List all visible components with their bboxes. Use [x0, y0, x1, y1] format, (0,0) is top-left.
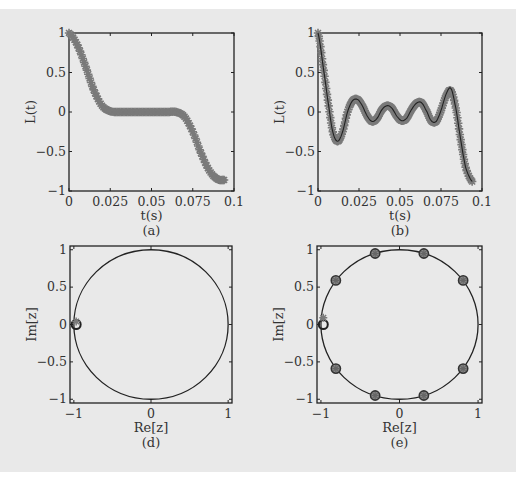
x-tick-label: 0.075 [175, 194, 211, 209]
y-tick-label: −1 [49, 391, 67, 406]
x-axis-label: t(s) [389, 208, 411, 223]
y-tick-label: −1 [296, 391, 314, 406]
star-marker [420, 392, 427, 399]
y-tick-label: 1 [59, 242, 67, 257]
star-marker [220, 176, 228, 184]
panel-label: (b) [391, 223, 409, 238]
plot-area [65, 29, 229, 184]
y-tick-label: 0.5 [47, 279, 67, 294]
y-tick-label: 0.5 [46, 65, 66, 80]
unit-circle [74, 250, 228, 400]
panel-label: (e) [391, 435, 409, 450]
figure: 00.0250.050.0750.1−1−0.500.51t(s)L(t)(a)… [0, 0, 516, 487]
chart-panel-a: 00.0250.050.0750.1−1−0.500.51t(s)L(t)(a) [23, 25, 244, 238]
panel-label: (d) [142, 435, 160, 450]
x-tick-label: 0.1 [224, 194, 244, 209]
x-tick-label: 0.025 [92, 194, 128, 209]
y-axis-label: L(t) [272, 100, 287, 124]
y-axis-label: Im[z] [271, 307, 286, 341]
x-tick-label: −1 [312, 406, 330, 421]
chart-panel-b: 00.0250.050.0750.1−1−0.500.51t(s)L(t)(b) [272, 25, 492, 238]
x-tick-label: 0.075 [423, 194, 459, 209]
star-marker [420, 250, 427, 257]
star-marker [372, 250, 379, 257]
unit-circle [321, 250, 478, 400]
x-tick-label: 0.025 [341, 194, 377, 209]
x-tick-label: 0 [396, 406, 404, 421]
y-tick-label: −0.5 [37, 354, 67, 369]
star-marker [332, 277, 339, 284]
chart-panel-d: −101−1−0.500.51Re[z]Im[z](d) [24, 242, 232, 450]
y-tick-label: 0 [307, 104, 315, 119]
star-marker [460, 365, 467, 372]
x-axis-label: t(s) [140, 208, 162, 223]
x-tick-label: 0.05 [138, 194, 166, 209]
y-axis-label: Im[z] [24, 307, 39, 341]
y-tick-label: 0 [58, 104, 66, 119]
axes-frame [70, 246, 232, 403]
star-marker [72, 318, 80, 326]
x-tick-label: 0 [314, 194, 322, 209]
x-axis-label: Re[z] [382, 420, 416, 435]
star-marker [460, 277, 467, 284]
y-tick-label: −1 [48, 183, 66, 198]
x-tick-label: −1 [65, 406, 83, 421]
y-tick-label: 0 [59, 317, 67, 332]
y-tick-label: 0.5 [294, 279, 314, 294]
x-tick-label: 1 [474, 406, 482, 421]
star-marker [332, 365, 339, 372]
y-tick-label: 1 [306, 242, 314, 257]
y-tick-label: −1 [297, 183, 315, 198]
x-tick-label: 0 [147, 406, 155, 421]
y-axis-label: L(t) [23, 100, 38, 124]
y-tick-label: −0.5 [36, 144, 66, 159]
chart-panel-e: −101−1−0.500.51Re[z]Im[z](e) [271, 242, 482, 450]
x-tick-label: 0.05 [386, 194, 414, 209]
y-tick-label: −0.5 [284, 354, 314, 369]
y-tick-label: −0.5 [285, 144, 315, 159]
y-tick-label: 0 [306, 317, 314, 332]
star-marker [372, 392, 379, 399]
x-tick-label: 0 [65, 194, 73, 209]
x-tick-label: 0.1 [472, 194, 492, 209]
star-marker [319, 314, 327, 322]
plot-area [319, 249, 478, 400]
panel-label: (a) [143, 223, 161, 238]
axes-frame [317, 246, 482, 403]
plot-area [72, 250, 228, 400]
x-tick-label: 1 [224, 406, 232, 421]
y-tick-label: 0.5 [295, 65, 315, 80]
x-axis-label: Re[z] [134, 420, 168, 435]
plot-area [314, 29, 477, 186]
